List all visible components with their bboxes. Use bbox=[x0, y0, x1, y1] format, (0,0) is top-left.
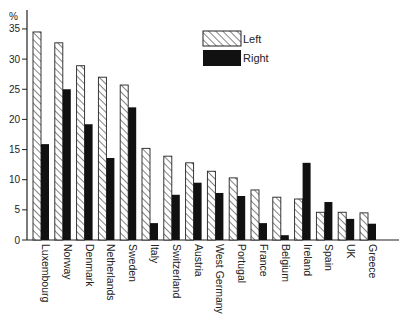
y-tick-label: 20 bbox=[9, 114, 21, 125]
bar-right bbox=[259, 223, 267, 240]
category-label: Netherlands bbox=[105, 244, 117, 301]
bar-chart: % 05101520253035 LuxembourgNorwayDenmark… bbox=[0, 0, 409, 321]
category-label: Belgium bbox=[280, 244, 292, 282]
legend-swatch-left bbox=[203, 31, 241, 46]
bar-right bbox=[41, 144, 49, 240]
bar-left bbox=[55, 43, 63, 240]
bar-left bbox=[33, 32, 41, 240]
category-label: Luxembourg bbox=[40, 244, 52, 303]
bar-right bbox=[215, 193, 223, 240]
bar-right bbox=[368, 224, 376, 240]
y-tick-label: 35 bbox=[9, 23, 21, 34]
category-label: West Germany bbox=[214, 244, 226, 315]
category-label: Italy bbox=[149, 244, 161, 264]
y-tick-label: 10 bbox=[9, 174, 21, 185]
y-tick-label: 25 bbox=[9, 84, 21, 95]
category-label: UK bbox=[345, 244, 357, 259]
category-label: Ireland bbox=[302, 244, 314, 276]
bar-right bbox=[303, 163, 311, 240]
category-label: Denmark bbox=[84, 244, 96, 287]
legend: Left Right bbox=[203, 31, 269, 66]
category-label: Sweden bbox=[127, 244, 139, 282]
bar-right bbox=[128, 107, 136, 240]
bar-right bbox=[106, 158, 114, 240]
y-axis-unit-label: % bbox=[9, 11, 18, 22]
legend-label-right: Right bbox=[243, 52, 269, 64]
y-tick-label: 15 bbox=[9, 144, 21, 155]
bar-left bbox=[98, 77, 106, 240]
bar-left bbox=[186, 163, 194, 240]
bar-left bbox=[164, 156, 172, 240]
category-label: Spain bbox=[323, 244, 335, 271]
bar-right bbox=[63, 89, 71, 240]
bar-left bbox=[295, 199, 303, 240]
y-tick-label: 0 bbox=[14, 235, 20, 246]
bar-left bbox=[229, 178, 237, 240]
bar-left bbox=[251, 190, 259, 240]
legend-label-left: Left bbox=[243, 33, 261, 45]
bar-right bbox=[237, 196, 245, 240]
bar-right bbox=[194, 183, 202, 240]
bar-right bbox=[346, 219, 354, 240]
category-label: Portugal bbox=[236, 244, 248, 283]
category-label: France bbox=[258, 244, 270, 277]
category-label: Austria bbox=[193, 244, 205, 277]
category-label: Greece bbox=[367, 244, 379, 279]
category-label: Norway bbox=[62, 244, 74, 280]
bar-right bbox=[150, 223, 158, 240]
legend-swatch-right bbox=[203, 50, 241, 66]
bar-left bbox=[360, 213, 368, 240]
y-tick-label: 30 bbox=[9, 54, 21, 65]
bar-left bbox=[77, 66, 85, 240]
category-label: Switzerland bbox=[171, 244, 183, 298]
x-axis-labels: LuxembourgNorwayDenmarkNetherlandsSweden… bbox=[40, 244, 379, 315]
bar-right bbox=[281, 235, 289, 240]
bar-left bbox=[273, 197, 281, 240]
bar-right bbox=[324, 202, 332, 240]
y-tick-label: 5 bbox=[14, 204, 20, 215]
bar-right bbox=[172, 195, 180, 240]
bar-left bbox=[207, 171, 215, 240]
bar-left bbox=[142, 148, 150, 240]
bar-right bbox=[85, 124, 93, 240]
bar-left bbox=[338, 212, 346, 240]
bar-left bbox=[120, 85, 128, 240]
bar-left bbox=[316, 212, 324, 240]
